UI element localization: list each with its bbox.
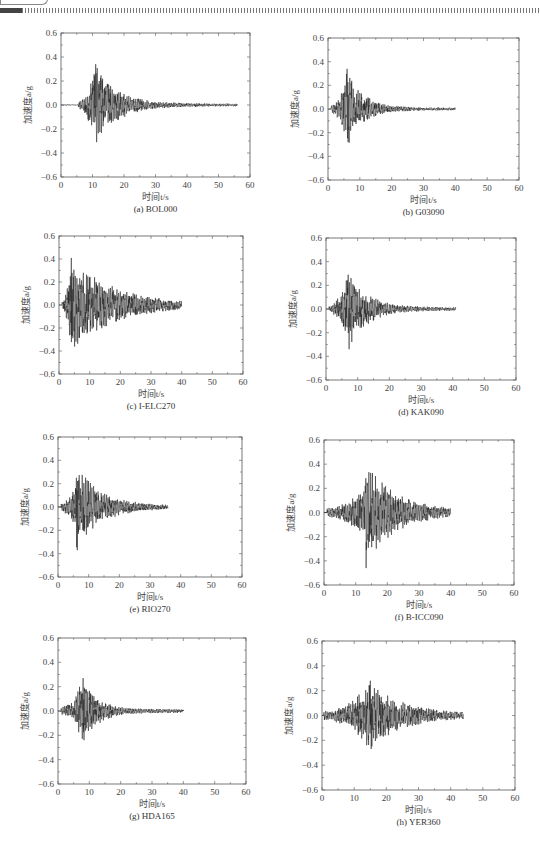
x-axis-title: 时间t/s xyxy=(410,194,437,205)
x-tick-label: 50 xyxy=(207,580,217,590)
x-tick-label: 20 xyxy=(382,793,392,803)
y-tick-label: −0.6 xyxy=(302,785,319,795)
y-tick-label: 0.2 xyxy=(46,76,57,86)
x-tick-label: 50 xyxy=(210,787,220,797)
x-axis-title: 时间t/s xyxy=(139,798,166,809)
header-tab-decoration xyxy=(0,0,48,5)
x-tick-label: 10 xyxy=(84,580,94,590)
y-tick-label: 0.0 xyxy=(309,508,321,518)
x-tick-label: 10 xyxy=(353,383,363,393)
x-axis-title: 时间t/s xyxy=(142,191,169,202)
acceleration-trace xyxy=(322,681,464,749)
y-axis-title: 加速度a/g xyxy=(20,286,31,324)
x-tick-label: 0 xyxy=(326,183,331,193)
chart-svg: 01020304050600.60.40.20.0−0.2−0.4−0.6时间t… xyxy=(0,0,540,844)
plot-frame xyxy=(59,236,243,374)
x-tick-label: 50 xyxy=(214,180,224,190)
x-tick-label: 10 xyxy=(351,588,361,598)
header-solid-bar xyxy=(0,8,22,13)
x-tick-label: 20 xyxy=(116,787,126,797)
x-tick-label: 10 xyxy=(355,183,365,193)
y-tick-label: −0.4 xyxy=(38,755,55,765)
chart-svg: 01020304050600.60.40.20.0−0.2−0.4−0.6时间t… xyxy=(0,0,540,844)
y-tick-label: −0.6 xyxy=(304,580,321,590)
x-tick-label: 30 xyxy=(417,383,427,393)
y-tick-label: −0.2 xyxy=(39,323,55,333)
y-tick-label: −0.4 xyxy=(308,151,325,161)
x-tick-label: 0 xyxy=(56,580,61,590)
y-tick-label: 0.4 xyxy=(43,455,55,465)
x-tick-label: 20 xyxy=(116,377,126,387)
x-tick-label: 0 xyxy=(56,787,61,797)
x-tick-label: 20 xyxy=(385,383,395,393)
y-axis-title: 加速度a/g xyxy=(285,493,296,531)
x-axis-title: 时间t/s xyxy=(408,394,435,405)
y-tick-label: 0.6 xyxy=(307,636,319,646)
y-tick-label: 0.6 xyxy=(46,28,58,38)
y-tick-label: 0.6 xyxy=(43,432,55,442)
x-tick-label: 60 xyxy=(242,787,252,797)
x-tick-label: 60 xyxy=(239,377,249,387)
acceleration-trace xyxy=(58,475,168,550)
y-tick-label: −0.4 xyxy=(304,556,321,566)
x-tick-label: 60 xyxy=(512,383,522,393)
y-tick-label: −0.2 xyxy=(38,525,54,535)
x-axis-title: 时间t/s xyxy=(138,388,165,399)
y-tick-label: 0.2 xyxy=(309,483,320,493)
y-axis-title: 加速度a/g xyxy=(283,696,294,734)
y-axis-title: 加速度a/g xyxy=(22,86,33,124)
x-tick-label: 40 xyxy=(446,793,456,803)
y-tick-label: −0.6 xyxy=(38,779,55,789)
y-tick-label: 0.2 xyxy=(311,280,322,290)
x-tick-label: 0 xyxy=(57,377,62,387)
y-tick-label: 0.0 xyxy=(43,706,55,716)
acceleration-trace xyxy=(59,258,182,347)
y-tick-label: −0.2 xyxy=(304,532,320,542)
y-tick-label: 0.4 xyxy=(309,459,321,469)
x-tick-label: 0 xyxy=(320,793,325,803)
x-tick-label: 0 xyxy=(59,180,64,190)
y-tick-label: 0.0 xyxy=(43,502,55,512)
y-tick-label: 0.2 xyxy=(313,80,324,90)
y-axis-title: 加速度a/g xyxy=(287,290,298,328)
y-tick-label: −0.4 xyxy=(302,760,319,770)
y-tick-label: 0.4 xyxy=(44,254,56,264)
chart-caption: (b) G03090 xyxy=(403,207,445,217)
x-tick-label: 20 xyxy=(383,588,393,598)
x-tick-label: 10 xyxy=(85,377,95,387)
chart-caption: (d) KAK090 xyxy=(398,407,444,417)
y-tick-label: 0.2 xyxy=(44,277,55,287)
x-tick-label: 40 xyxy=(179,787,189,797)
chart-svg: 01020304050600.60.40.20.0−0.2−0.4−0.6时间t… xyxy=(0,0,540,844)
acceleration-trace xyxy=(326,275,456,350)
x-tick-label: 30 xyxy=(148,787,158,797)
x-tick-label: 40 xyxy=(448,383,458,393)
y-tick-label: 0.4 xyxy=(46,52,58,62)
x-tick-label: 20 xyxy=(115,580,125,590)
x-axis-title: 时间t/s xyxy=(405,804,432,815)
chart-svg: 01020304050600.60.40.20.0−0.2−0.4−0.6时间t… xyxy=(0,0,540,844)
x-axis-title: 时间t/s xyxy=(137,591,164,602)
x-tick-label: 20 xyxy=(387,183,397,193)
acceleration-trace xyxy=(61,64,237,142)
x-tick-label: 30 xyxy=(147,377,157,387)
chart-caption: (a) BOL000 xyxy=(134,204,178,214)
y-tick-label: 0.0 xyxy=(311,304,323,314)
y-tick-label: 0.0 xyxy=(46,100,58,110)
x-tick-label: 30 xyxy=(419,183,429,193)
page-header-band xyxy=(0,0,540,14)
x-tick-label: 30 xyxy=(146,580,156,590)
x-tick-label: 50 xyxy=(478,588,488,598)
acceleration-trace xyxy=(58,678,183,740)
plot-frame xyxy=(326,238,516,380)
x-tick-label: 10 xyxy=(88,180,98,190)
y-tick-label: 0.4 xyxy=(311,257,323,267)
y-tick-label: −0.2 xyxy=(308,128,324,138)
x-tick-label: 0 xyxy=(322,588,327,598)
y-tick-label: −0.4 xyxy=(41,148,58,158)
x-tick-label: 0 xyxy=(324,383,329,393)
y-tick-label: 0.0 xyxy=(313,104,325,114)
y-tick-label: −0.4 xyxy=(38,549,55,559)
x-tick-label: 30 xyxy=(415,588,425,598)
y-tick-label: −0.4 xyxy=(39,346,56,356)
